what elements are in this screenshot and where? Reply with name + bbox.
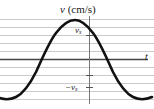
peak-value-subscript: s	[79, 28, 82, 35]
peak-value-label: vs	[75, 26, 82, 36]
x-axis-title: t	[145, 52, 148, 62]
velocity-time-figure: v (cm/s) vs −vs t	[0, 0, 154, 109]
trough-value-subscript: s	[75, 85, 78, 92]
y-axis-title-unit: (cm/s)	[65, 3, 96, 15]
trough-value-label: −vs	[65, 83, 78, 93]
y-axis-title: v (cm/s)	[60, 4, 96, 15]
